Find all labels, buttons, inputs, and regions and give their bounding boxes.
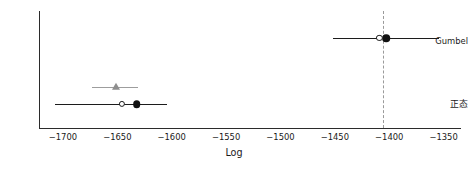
data-point-triangle-up [112,83,120,90]
data-point-circle-open [119,101,125,107]
x-tick-label: −1500 [266,133,294,141]
reference-line [383,11,384,128]
error-bar [55,104,167,105]
y-axis-spine [39,11,40,129]
x-axis-spine [39,128,461,129]
x-tick-label: −1550 [212,133,240,141]
x-tick-label: −1600 [158,133,186,141]
data-point-circle-open [376,35,382,41]
x-tick-label: −1700 [49,133,77,141]
data-point-circle-filled [133,100,141,108]
y-tick-label-normal: 正态 [434,100,468,109]
x-tick-label: −1350 [429,133,457,141]
x-tick-label: −1450 [321,133,349,141]
x-tick-label: −1650 [103,133,131,141]
x-tick-label: −1400 [375,133,403,141]
forest-plot-figure: Gumbel 正态 −1700−1650−1600−1550−1500−1450… [0,0,468,169]
data-point-circle-filled [382,34,390,42]
x-axis-label: Log [0,148,468,158]
